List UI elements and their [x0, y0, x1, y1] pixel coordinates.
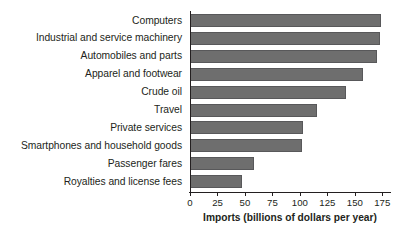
bar-chart: ComputersIndustrial and service machiner…: [0, 0, 410, 239]
x-axis-tick-label: 125: [319, 197, 335, 208]
category-label: Automobiles and parts: [0, 50, 182, 61]
bar: [190, 157, 254, 170]
x-axis-tick-label: 175: [374, 197, 390, 208]
x-axis-tick: [190, 192, 191, 196]
bar: [190, 121, 303, 134]
plot-area: [190, 12, 390, 192]
x-axis-tick: [245, 192, 246, 196]
x-axis-tick-label: 50: [240, 197, 251, 208]
x-axis-tick: [382, 192, 383, 196]
category-label: Smartphones and household goods: [0, 140, 182, 151]
category-label: Royalties and license fees: [0, 176, 182, 187]
x-axis-tick-label: 75: [267, 197, 278, 208]
x-axis-tick: [272, 192, 273, 196]
bar: [190, 139, 302, 152]
bar: [190, 104, 317, 117]
category-label: Apparel and footwear: [0, 68, 182, 79]
x-axis-tick-label: 0: [187, 197, 192, 208]
bar: [190, 86, 346, 99]
bar: [190, 68, 363, 81]
category-labels: ComputersIndustrial and service machiner…: [0, 12, 182, 192]
category-label: Crude oil: [0, 86, 182, 97]
category-label: Industrial and service machinery: [0, 32, 182, 43]
x-axis-tick-label: 25: [212, 197, 223, 208]
bar: [190, 175, 242, 188]
x-axis-title: Imports (billions of dollars per year): [190, 212, 390, 223]
category-label: Private services: [0, 122, 182, 133]
bar: [190, 50, 377, 63]
x-axis-tick: [327, 192, 328, 196]
x-axis-tick-label: 100: [292, 197, 308, 208]
category-label: Computers: [0, 15, 182, 26]
y-axis-line: [190, 11, 191, 193]
bar: [190, 14, 381, 27]
x-axis-line: [189, 192, 391, 193]
bar: [190, 32, 380, 45]
category-label: Passenger fares: [0, 158, 182, 169]
x-axis-tick-label: 150: [347, 197, 363, 208]
x-axis-tick: [300, 192, 301, 196]
x-axis-tick: [217, 192, 218, 196]
x-axis-tick: [355, 192, 356, 196]
category-label: Travel: [0, 104, 182, 115]
